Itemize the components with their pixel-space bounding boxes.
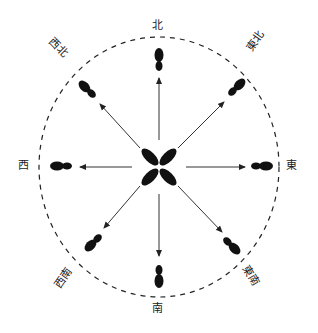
label-east: 東 xyxy=(286,160,297,171)
footprint-northwest xyxy=(76,78,98,100)
arrow-southeast xyxy=(178,186,222,232)
center-footprints xyxy=(139,146,180,189)
center-footprint-ne xyxy=(157,146,180,169)
outer-footprints xyxy=(50,48,273,288)
footprint-south xyxy=(155,265,164,288)
footprint-southwest xyxy=(82,232,104,254)
label-west: 西 xyxy=(18,160,29,171)
label-north: 北 xyxy=(152,20,163,31)
arrow-northwest xyxy=(100,104,140,148)
direction-arrows xyxy=(80,78,245,256)
center-footprint-sw xyxy=(139,166,162,189)
footprint-east xyxy=(251,162,273,171)
arrow-southwest xyxy=(104,186,140,228)
footprint-northeast xyxy=(226,76,248,98)
compass-diagram xyxy=(0,0,318,333)
center-footprint-se xyxy=(157,166,180,189)
label-south: 南 xyxy=(152,303,163,314)
arrow-northeast xyxy=(178,102,224,148)
center-footprint-nw xyxy=(139,146,162,169)
footprint-north xyxy=(155,48,164,71)
footprint-southeast xyxy=(221,235,243,257)
footprint-west xyxy=(50,162,72,171)
